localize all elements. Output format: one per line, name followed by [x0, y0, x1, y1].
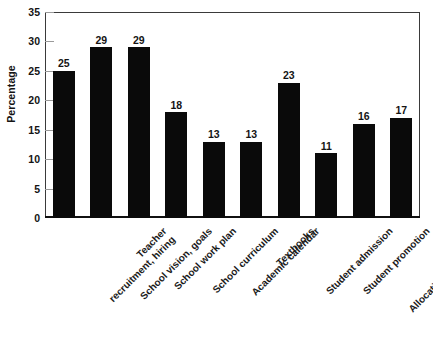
y-axis-tick-label: 15: [8, 125, 40, 136]
bar: 18: [165, 112, 187, 218]
bar: 23: [278, 83, 300, 218]
x-axis-category-label: Textbooks: [274, 225, 317, 268]
x-axis-category-label: Student promotion: [361, 225, 433, 297]
bar-value-label: 25: [58, 58, 70, 69]
y-axis-tick-label: 10: [8, 154, 40, 165]
bar: 29: [128, 47, 150, 218]
bar-value-label: 29: [95, 35, 107, 46]
y-axis-tick-label: 20: [8, 95, 40, 106]
bar: 29: [90, 47, 112, 218]
bar-value-label: 17: [395, 105, 407, 116]
bar: 13: [240, 142, 262, 219]
bar: 16: [353, 124, 375, 218]
bar-value-label: 16: [358, 111, 370, 122]
y-axis-tick-label: 5: [8, 184, 40, 195]
bar: 11: [315, 153, 337, 218]
bar-value-label: 23: [283, 70, 295, 81]
bar-value-label: 29: [133, 35, 145, 46]
bar-value-label: 11: [321, 141, 332, 152]
bar-value-label: 13: [245, 129, 257, 140]
bar: 25: [53, 71, 75, 218]
bar: 13: [203, 142, 225, 219]
bar-chart: Percentage 05101520253035 25292918131323…: [0, 0, 433, 339]
bar-value-label: 18: [170, 100, 182, 111]
x-axis-labels: Teacherrecruitment, hiringSchool vision,…: [45, 220, 420, 339]
bar-value-label: 13: [208, 129, 220, 140]
bar-series: 25292918131323111617: [45, 12, 420, 218]
y-axis-tick-label: 25: [8, 66, 40, 77]
y-axis-tick-label: 0: [8, 213, 40, 224]
bar: 17: [390, 118, 412, 218]
y-axis-tick-label: 35: [8, 7, 40, 18]
y-axis-tick-label: 30: [8, 36, 40, 47]
x-axis-category-label: Student admission: [324, 225, 396, 297]
